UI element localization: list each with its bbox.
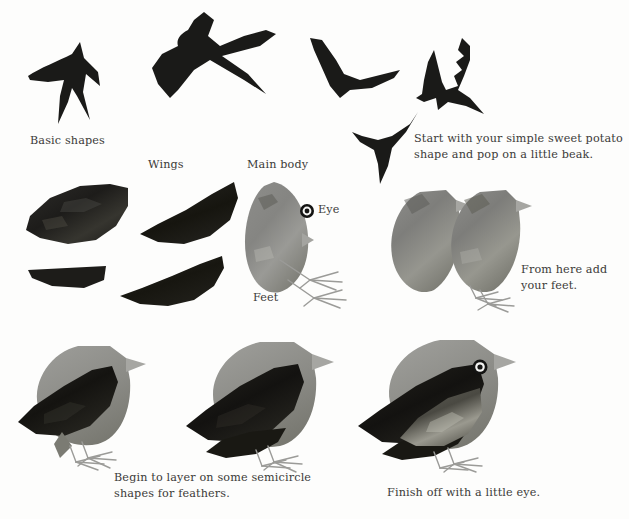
wing-shape-lower-left	[26, 264, 110, 294]
caption-step-eye: Finish off with a little eye.	[387, 485, 617, 501]
flying-bird-silhouette-c	[414, 36, 500, 122]
bird-finished-with-eye	[352, 330, 532, 472]
swift-silhouette-small	[24, 28, 124, 128]
flying-bird-silhouette-b	[348, 110, 420, 190]
tutorial-page: Basic shapes Start with your simple swee…	[0, 0, 629, 519]
label-feet: Feet	[253, 291, 279, 304]
eye-swatch	[299, 203, 315, 219]
bird-body-with-beak-and-feet	[446, 186, 554, 312]
bird-with-feathers-step-2	[182, 336, 352, 472]
wing-shape-upper-right	[138, 180, 242, 248]
feet-swatch	[276, 258, 360, 312]
label-basic-shapes: Basic shapes	[30, 134, 105, 147]
label-main-body: Main body	[247, 158, 308, 171]
label-eye: Eye	[318, 203, 340, 216]
caption-step-feet: From here add your feet.	[521, 262, 625, 293]
label-wings: Wings	[148, 158, 184, 171]
swallow-silhouette-large	[148, 6, 283, 106]
flying-bird-silhouette-a	[308, 34, 404, 104]
bird-with-feathers-step-1	[14, 340, 164, 470]
beak-swatch	[301, 232, 315, 248]
caption-step-beak: Start with your simple sweet potato shap…	[414, 131, 624, 162]
wing-shape-lower-right	[118, 254, 226, 310]
bird-eye	[473, 360, 488, 375]
wing-shape-upper-left	[24, 182, 132, 254]
caption-step-feathers: Begin to layer on some semicircle shapes…	[114, 470, 364, 501]
